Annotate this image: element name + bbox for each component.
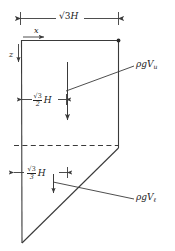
lower-force-subscript: ℓ bbox=[154, 196, 157, 203]
upper-force-leader bbox=[66, 66, 134, 91]
top-width-radical: √3 bbox=[59, 11, 70, 21]
lower-offset-symbol: H bbox=[36, 168, 45, 178]
top-width-label: √3H bbox=[59, 12, 78, 21]
diagram-canvas bbox=[0, 0, 175, 251]
pressure-prism-diagram: √3H x z √3 2 H √3 3 H ρgVu ρgVℓ bbox=[0, 0, 175, 251]
lower-offset-fraction: √3 3 bbox=[27, 166, 36, 181]
upper-offset-label: √3 2 H bbox=[33, 93, 52, 108]
lower-force-leader bbox=[53, 182, 134, 199]
z-axis-label: z bbox=[9, 51, 13, 59]
upper-force-label: ρgVu bbox=[136, 60, 158, 70]
lower-force-label: ρgVℓ bbox=[136, 193, 156, 203]
corner-point bbox=[117, 39, 121, 43]
lower-offset-label: √3 3 H bbox=[27, 166, 46, 181]
upper-offset-denominator: 2 bbox=[33, 101, 42, 108]
lower-offset-denominator: 3 bbox=[27, 174, 36, 181]
upper-offset-fraction: √3 2 bbox=[33, 93, 42, 108]
x-axis-label: x bbox=[34, 27, 39, 35]
upper-force-subscript: u bbox=[154, 63, 158, 70]
upper-offset-symbol: H bbox=[42, 95, 51, 105]
top-width-symbol: H bbox=[70, 11, 78, 21]
body-outline bbox=[21, 40, 119, 243]
